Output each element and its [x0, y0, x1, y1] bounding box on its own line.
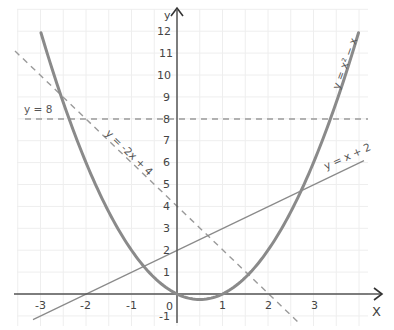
x-tick-label: -1 [126, 299, 137, 312]
y-tick-label: 6 [163, 156, 170, 169]
y-tick-label: 3 [163, 222, 170, 235]
label-y-equals-neg2x-plus-4: y = -2x + 4 [104, 127, 156, 178]
y-tick-label: 4 [163, 200, 170, 213]
y-tick-label: 9 [163, 91, 170, 104]
y-tick-label: 7 [163, 134, 170, 147]
x-axis-label: X [372, 304, 381, 319]
x-tick-label: 3 [311, 299, 318, 312]
y-tick-labels: 1 2 3 4 5 6 7 8 9 10 11 12 -1 [157, 25, 173, 323]
y-tick-label: 5 [163, 178, 170, 191]
y-axis-label: y [164, 9, 171, 22]
y-tick-label: 8 [163, 113, 170, 126]
x-tick-label: 1 [219, 299, 226, 312]
x-tick-label: -2 [80, 299, 91, 312]
label-y-equals-x-plus-2: y = x + 2 [322, 141, 373, 172]
y-tick-label: 10 [157, 69, 171, 82]
x-tick-label: 2 [265, 299, 272, 312]
y-tick-label: 1 [163, 266, 170, 279]
grid [17, 9, 368, 326]
x-tick-label: -3 [35, 299, 46, 312]
y-tick-label: -1 [159, 310, 170, 323]
label-y-equals-8: y = 8 [24, 103, 52, 115]
function-graph: -3 -2 -1 1 2 3 0 1 2 3 4 5 6 7 8 9 10 11… [0, 0, 394, 330]
y-tick-label: 2 [163, 244, 170, 257]
y-tick-label: 12 [157, 25, 171, 38]
y-tick-label: 11 [159, 47, 173, 60]
